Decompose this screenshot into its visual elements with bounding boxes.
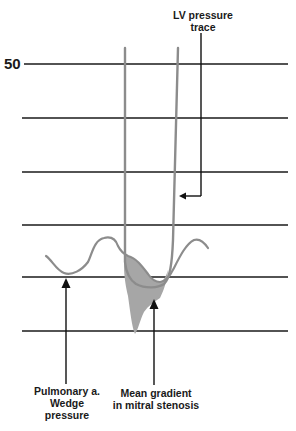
- y-axis-label-50: 50: [4, 55, 21, 72]
- wedge-pressure-label: Pulmonary a. Wedge pressure: [28, 385, 106, 421]
- lv-pressure-label: LV pressure trace: [170, 9, 236, 33]
- wedge-label-line3: pressure: [28, 409, 106, 421]
- lv-arrowhead-icon: [179, 193, 186, 200]
- wedge-label-line1: Pulmonary a.: [28, 385, 106, 397]
- gradient-label-line2: in mitral stenosis: [108, 399, 204, 411]
- lv-pressure-trace: [125, 48, 178, 287]
- lv-label-line1: LV pressure: [170, 9, 236, 21]
- pressure-diagram: [0, 0, 296, 431]
- wedge-arrowhead-icon: [62, 278, 71, 288]
- mean-gradient-label: Mean gradient in mitral stenosis: [108, 387, 204, 411]
- mitral-gradient-area: [124, 254, 168, 334]
- gradient-label-line1: Mean gradient: [108, 387, 204, 399]
- lv-label-line2: trace: [170, 21, 236, 33]
- wedge-label-line2: Wedge: [28, 397, 106, 409]
